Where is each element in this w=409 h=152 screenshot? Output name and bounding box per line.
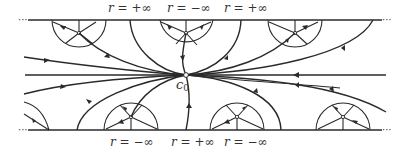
bottom-semicircle-node-3 [316,103,370,130]
bottom-semicircle-node-2 [210,103,264,130]
top-label-1: r = +∞ [108,1,151,15]
flow-diagram: ··· ··· ··· ··· [0,0,409,152]
bottom-left-ellipsis: ··· [18,124,28,135]
bottom-label-2: r = +∞ [171,135,214,149]
bottom-label-3: r = −∞ [224,135,267,149]
top-labels: r = +∞ r = −∞ r = +∞ [108,1,267,15]
bottom-labels: r = −∞ r = +∞ r = −∞ [110,135,267,149]
top-label-2: r = −∞ [167,1,210,15]
arrow-left-icon [293,72,299,78]
top-semicircle-node-2 [160,20,213,45]
top-label-3: r = +∞ [224,1,267,15]
top-right-ellipsis: ··· [382,14,392,25]
top-left-ellipsis: ··· [18,14,28,25]
bottom-label-1: r = −∞ [110,135,153,149]
bottom-right-ellipsis: ··· [382,124,392,135]
